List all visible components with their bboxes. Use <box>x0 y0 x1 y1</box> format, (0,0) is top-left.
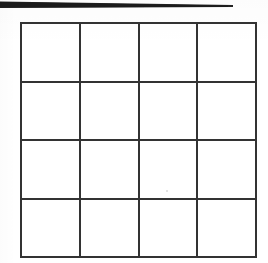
table-row <box>21 199 256 258</box>
grid-cell-r1c1[interactable] <box>21 23 80 82</box>
scan-edge-shadow-core <box>0 2 228 8</box>
grid-cell-r4c2[interactable] <box>80 199 139 258</box>
grid-cell-r3c4[interactable] <box>197 140 256 199</box>
table-row <box>21 23 256 82</box>
scanned-page <box>0 0 268 263</box>
grid-cell-r1c2[interactable] <box>80 23 139 82</box>
scan-edge-shadow-bar <box>0 0 234 10</box>
table-row <box>21 140 256 199</box>
grid-cell-r4c3[interactable] <box>139 199 198 258</box>
grid-cell-r2c3[interactable] <box>139 82 198 141</box>
grid-cell-r4c4[interactable] <box>197 199 256 258</box>
grid-cell-r2c4[interactable] <box>197 82 256 141</box>
grid-cell-r1c3[interactable] <box>139 23 198 82</box>
grid-body <box>21 23 256 257</box>
grid-table <box>20 22 257 258</box>
grid-cell-r2c1[interactable] <box>21 82 80 141</box>
grid-cell-r3c1[interactable] <box>21 140 80 199</box>
table-row <box>21 82 256 141</box>
grid-cell-r3c2[interactable] <box>80 140 139 199</box>
grid-cell-r2c2[interactable] <box>80 82 139 141</box>
grid-cell-r1c4[interactable] <box>197 23 256 82</box>
grid-cell-r3c3[interactable] <box>139 140 198 199</box>
grid-cell-r4c1[interactable] <box>21 199 80 258</box>
scan-edge-shadow-shape <box>0 2 233 9</box>
